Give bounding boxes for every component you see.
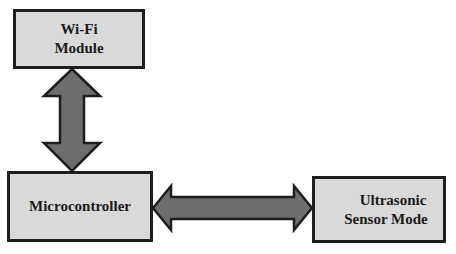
connector-layer	[0, 0, 456, 254]
vertical-double-arrow-icon	[44, 69, 100, 171]
horizontal-double-arrow-icon	[153, 186, 312, 230]
